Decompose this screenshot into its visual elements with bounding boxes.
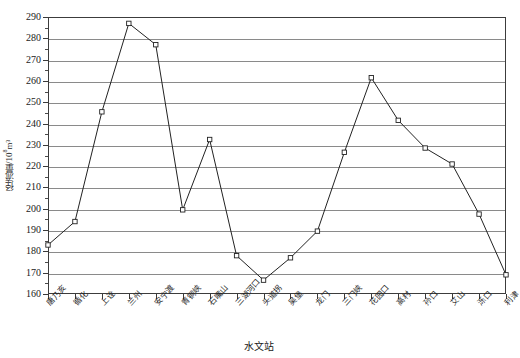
gridline: [49, 231, 505, 232]
gridline: [49, 167, 505, 168]
gridline: [49, 146, 505, 147]
x-axis-title: 水文站: [0, 338, 518, 353]
gridline: [49, 61, 505, 62]
gridline: [49, 103, 505, 104]
gridline: [49, 82, 505, 83]
gridline: [49, 210, 505, 211]
plot-area: [48, 17, 506, 294]
gridline: [49, 125, 505, 126]
gridline: [49, 252, 505, 253]
gridline: [49, 188, 505, 189]
gridline: [49, 274, 505, 275]
gridline: [49, 39, 505, 40]
